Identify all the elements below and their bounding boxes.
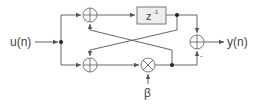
gain-label: β xyxy=(144,86,151,100)
multiplier xyxy=(141,58,155,72)
adder-bottom xyxy=(83,58,97,72)
block-diagram: u(n) y(n) z -1 β - xyxy=(0,0,261,106)
minus-sign: - xyxy=(200,51,203,60)
junction-top xyxy=(175,13,179,17)
adder-top xyxy=(83,8,97,22)
junction-bottom xyxy=(170,63,174,67)
delay-block xyxy=(137,7,166,24)
junction-input xyxy=(59,40,63,44)
delay-label: z xyxy=(146,10,152,22)
delay-exponent: -1 xyxy=(153,9,159,15)
output-label: y(n) xyxy=(227,35,248,49)
cross-wire-2 xyxy=(90,24,172,65)
adder-output xyxy=(190,35,204,49)
input-label: u(n) xyxy=(10,35,31,49)
